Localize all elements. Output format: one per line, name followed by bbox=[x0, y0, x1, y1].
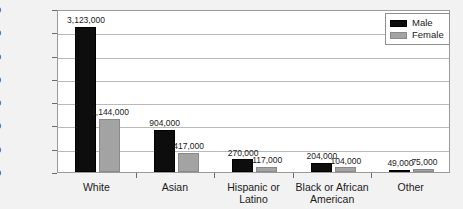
y-axis-tick-label: 1,500,000 bbox=[0, 98, 1, 108]
bar-value-label: 104,000 bbox=[316, 157, 376, 166]
bar-group: 204,000104,000 bbox=[294, 11, 373, 172]
x-axis-tick-mark bbox=[214, 173, 215, 178]
legend-swatch-male bbox=[390, 20, 407, 27]
x-axis-tick-mark bbox=[136, 173, 137, 178]
bar-value-label: 3,123,000 bbox=[56, 16, 116, 25]
bar-value-label: 417,000 bbox=[159, 142, 219, 151]
bar-group: 270,000117,000 bbox=[215, 11, 294, 172]
bar-value-label: 904,000 bbox=[135, 119, 195, 128]
bar-male[interactable] bbox=[154, 130, 175, 172]
bar-female[interactable] bbox=[335, 167, 356, 172]
bar-male[interactable] bbox=[75, 27, 96, 172]
bar-chart: 0500,0001,000,0001,500,0002,000,0002,500… bbox=[0, 0, 463, 209]
x-axis-tick-mark bbox=[293, 173, 294, 178]
legend: Male Female bbox=[385, 13, 450, 45]
bar-female[interactable] bbox=[99, 119, 120, 172]
bar-female[interactable] bbox=[413, 169, 434, 172]
y-axis-tick-label: 2,000,000 bbox=[0, 75, 1, 85]
bar-female[interactable] bbox=[256, 167, 277, 172]
bar-group: 3,123,0001,144,000 bbox=[58, 11, 137, 172]
x-axis-tick-mark bbox=[371, 173, 372, 178]
legend-label-female: Female bbox=[412, 30, 444, 40]
legend-swatch-female bbox=[390, 32, 407, 39]
bar-female[interactable] bbox=[178, 153, 199, 172]
y-axis-tick-label: 3,500,000 bbox=[0, 5, 1, 15]
y-axis-tick-label: 500,000 bbox=[0, 145, 1, 155]
bar-male[interactable] bbox=[389, 170, 410, 172]
y-axis-tick-label: 2,500,000 bbox=[0, 52, 1, 62]
bar-group: 904,000417,000 bbox=[137, 11, 216, 172]
legend-item-female: Female bbox=[390, 29, 445, 41]
bar-value-label: 1,144,000 bbox=[80, 108, 140, 117]
x-axis-category-label-line: American bbox=[282, 193, 382, 205]
legend-item-male: Male bbox=[390, 17, 445, 29]
x-axis-category-label-line: Other bbox=[361, 181, 461, 193]
x-axis-category-label: Other bbox=[361, 181, 461, 193]
bar-value-label: 117,000 bbox=[237, 156, 297, 165]
y-axis-tick-label: 3,000,000 bbox=[0, 28, 1, 38]
y-axis-tick-mark bbox=[52, 173, 57, 174]
legend-label-male: Male bbox=[412, 18, 433, 28]
y-axis-tick-label: 0 bbox=[0, 168, 1, 178]
bar-value-label: 75,000 bbox=[394, 158, 454, 167]
y-axis-tick-label: 1,000,000 bbox=[0, 121, 1, 131]
